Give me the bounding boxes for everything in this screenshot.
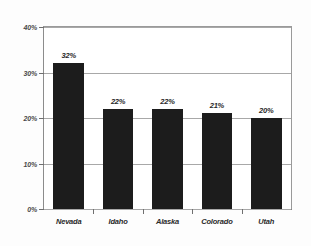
y-axis-label: 10% [24,160,37,167]
y-axis-tick [39,164,44,165]
x-axis-tick [192,209,193,214]
y-axis-label: 30% [24,69,37,76]
x-axis-tick [143,209,144,214]
x-axis-label: Colorado [201,217,232,226]
bar-value-label: 22% [160,97,174,106]
bar[interactable]: 22% [103,109,134,209]
plot-area: 0%10%20%30%40%32%Nevada22%Idaho22%Alaska… [43,26,292,210]
bar[interactable]: 20% [251,118,282,209]
y-axis-label: 0% [27,206,37,213]
x-axis-label: Alaska [156,217,179,226]
bar-chart-screenshot: 0%10%20%30%40%32%Nevada22%Idaho22%Alaska… [0,0,311,246]
x-axis-tick [242,209,243,214]
bar-value-label: 32% [61,51,75,60]
x-axis-label: Utah [258,217,274,226]
x-axis-tick [93,209,94,214]
y-axis-label: 40% [24,24,37,31]
bar-value-label: 21% [210,101,224,110]
bar[interactable]: 32% [53,63,84,209]
bar[interactable]: 21% [202,113,233,209]
y-gridline [44,209,291,210]
y-gridline [44,27,291,28]
y-axis-label: 20% [24,115,37,122]
x-axis-label: Idaho [109,217,128,226]
bar-value-label: 22% [111,97,125,106]
x-axis-label: Nevada [56,217,81,226]
y-axis-tick [39,118,44,119]
y-axis-tick [39,27,44,28]
y-axis-tick [39,209,44,210]
bar-value-label: 20% [259,106,273,115]
y-axis-tick [39,73,44,74]
bar[interactable]: 22% [152,109,183,209]
